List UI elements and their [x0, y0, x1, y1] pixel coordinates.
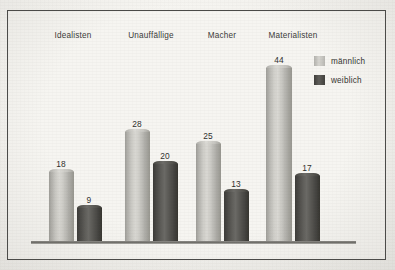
value-label-macher-maennlich: 25 [203, 131, 213, 141]
chart-frame: Idealisten Unauffällige Macher Materiali… [7, 10, 386, 260]
bar-body [295, 176, 320, 241]
bar-body [49, 172, 74, 241]
bar-materialisten-weiblich [295, 173, 320, 241]
bar-unauffaellige-weiblich [153, 161, 178, 241]
legend-swatch-maennlich-icon [314, 56, 325, 66]
bar-idealisten-weiblich [77, 205, 102, 241]
category-label-materialisten: Materialisten [268, 31, 317, 40]
bar-body [77, 208, 102, 241]
value-label-unauffaellige-weiblich: 20 [160, 151, 170, 161]
legend-swatch-weiblich-icon [314, 75, 325, 85]
bar-body [196, 144, 221, 241]
bar-body [224, 192, 249, 241]
bar-idealisten-maennlich [49, 169, 74, 241]
plot-area: Idealisten Unauffällige Macher Materiali… [8, 11, 387, 261]
legend-item-weiblich: weiblich [314, 75, 365, 85]
screenshot-root: Idealisten Unauffällige Macher Materiali… [0, 0, 395, 270]
bar-materialisten-maennlich [266, 65, 292, 241]
legend-label-weiblich: weiblich [331, 76, 362, 85]
value-label-materialisten-weiblich: 17 [302, 163, 312, 173]
category-label-macher: Macher [208, 31, 237, 40]
bar-macher-weiblich [224, 189, 249, 241]
value-label-macher-weiblich: 13 [231, 179, 241, 189]
value-label-unauffaellige-maennlich: 28 [132, 119, 142, 129]
value-label-idealisten-maennlich: 18 [56, 159, 66, 169]
value-label-idealisten-weiblich: 9 [87, 195, 92, 205]
chart-legend: männlich weiblich [314, 56, 365, 94]
bar-macher-maennlich [196, 141, 221, 241]
category-label-idealisten: Idealisten [54, 31, 91, 40]
bar-body [153, 164, 178, 241]
legend-label-maennlich: männlich [331, 57, 365, 66]
legend-item-maennlich: männlich [314, 56, 365, 66]
bar-body [125, 132, 150, 241]
category-label-unauffaellige: Unauffällige [128, 31, 174, 40]
bar-unauffaellige-maennlich [125, 129, 150, 241]
bar-body [266, 68, 292, 241]
x-axis-baseline [31, 241, 356, 244]
value-label-materialisten-maennlich: 44 [274, 55, 284, 65]
